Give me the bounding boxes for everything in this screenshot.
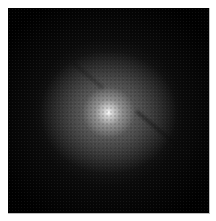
galaxy-image [8, 8, 210, 214]
image-noise [8, 8, 209, 213]
